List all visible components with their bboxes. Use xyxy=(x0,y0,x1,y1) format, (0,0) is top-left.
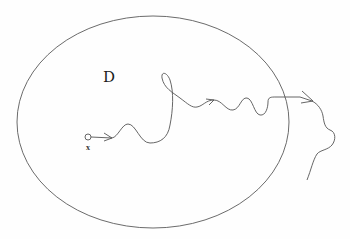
arrow-icon-start xyxy=(104,133,112,141)
arrow-icon-exit xyxy=(301,91,313,103)
domain-label: D xyxy=(103,68,115,86)
random-path xyxy=(91,73,335,180)
domain-boundary xyxy=(17,16,289,228)
start-point-marker xyxy=(85,134,91,140)
diagram-canvas: D x xyxy=(0,0,350,239)
start-point-label: x xyxy=(86,143,90,152)
diagram-svg: D x xyxy=(0,0,350,239)
